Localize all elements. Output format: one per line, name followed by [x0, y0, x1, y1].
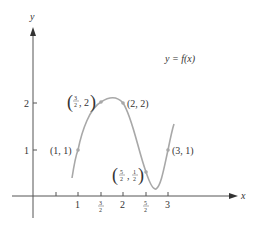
x-axis-arrow-icon	[229, 193, 238, 199]
svg-text:2: 2	[74, 102, 77, 108]
point-label-3-2-2: ( 3 2 , 2 )	[67, 92, 96, 113]
function-curve	[72, 98, 174, 189]
svg-text:2: 2	[144, 207, 147, 213]
svg-text:(: (	[67, 92, 73, 113]
y-tick-label-2: 2	[24, 98, 29, 109]
point-label-3-1: (3, 1)	[172, 145, 194, 157]
svg-text:(: (	[112, 165, 118, 186]
svg-text:1: 1	[133, 169, 136, 175]
point-label-1-1: (1, 1)	[50, 145, 72, 157]
y-axis-label: y	[29, 11, 35, 22]
svg-text:2: 2	[120, 176, 123, 182]
x-axis-label: x	[240, 190, 246, 201]
x-tick-label-5-2: 5 2	[143, 200, 149, 213]
function-label: y = f(x)	[164, 53, 196, 65]
x-tick-label-3: 3	[165, 199, 170, 210]
chart-canvas: x y 1 3 2 2 5 2 3 2 1 (1, 1) ( 3	[0, 0, 254, 228]
svg-text:3: 3	[99, 200, 102, 206]
svg-text:, 2: , 2	[79, 97, 89, 108]
svg-text:5: 5	[144, 200, 147, 206]
svg-text:): )	[90, 92, 96, 113]
x-ticks	[56, 192, 168, 196]
x-tick-label-2: 2	[120, 199, 125, 210]
svg-text:2: 2	[99, 207, 102, 213]
x-tick-label-3-2: 3 2	[98, 200, 104, 213]
svg-text:): )	[138, 165, 144, 186]
svg-text:,: ,	[127, 170, 130, 181]
svg-text:5: 5	[120, 169, 123, 175]
svg-text:2: 2	[133, 176, 136, 182]
y-ticks	[33, 103, 37, 150]
point-label-5-2-1-2: ( 5 2 , 1 2 )	[112, 165, 144, 186]
x-tick-label-1: 1	[75, 199, 80, 210]
svg-text:3: 3	[74, 95, 77, 101]
y-tick-label-1: 1	[24, 145, 29, 156]
point-label-2-2: (2, 2)	[127, 98, 149, 110]
y-axis-arrow-icon	[30, 27, 36, 36]
